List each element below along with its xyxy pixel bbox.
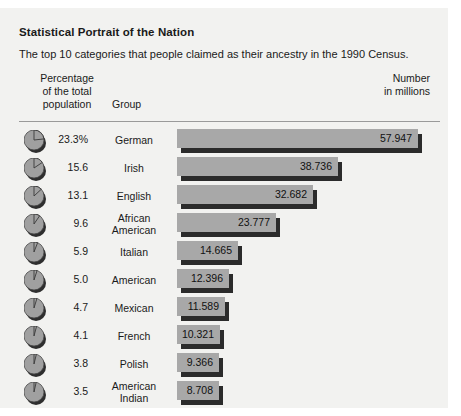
column-header-number: Number in millions (384, 72, 430, 98)
table-row: 5.9Italian14.665 (0, 238, 448, 266)
bar-value-label: 9.366 (177, 353, 219, 372)
group-label-line1: Italian (96, 246, 172, 258)
group-label-line1: English (96, 190, 172, 202)
table-row: 13.1English32.682 (0, 182, 448, 210)
percentage-label: 4.7 (44, 301, 88, 313)
group-label-line1: African (96, 212, 172, 224)
bar-value-label: 11.589 (177, 297, 225, 316)
column-header-group: Group (112, 98, 172, 111)
column-header-percentage-line1: Percentage (21, 72, 113, 85)
percentage-label: 5.9 (44, 245, 88, 257)
table-row: 3.5AmericanIndian8.708 (0, 378, 448, 406)
bar-value-label: 38.736 (177, 157, 338, 176)
bar-value-label: 23.777 (177, 213, 276, 232)
group-label-line1: American (96, 380, 172, 392)
table-row: 5.0American12.396 (0, 266, 448, 294)
bar-container: 11.589 (177, 294, 448, 322)
pie-chart-icon (24, 298, 46, 320)
bar-value-label: 10.321 (177, 325, 220, 344)
bar-value-label: 57.947 (177, 129, 418, 148)
group-label: AmericanIndian (96, 378, 172, 406)
pie-chart-icon (24, 214, 46, 236)
percentage-label: 4.1 (44, 329, 88, 341)
percentage-label: 9.6 (44, 217, 88, 229)
bar-value-label: 14.665 (177, 241, 238, 260)
group-label: English (96, 182, 172, 210)
bar-container: 8.708 (177, 378, 448, 406)
bar-container: 14.665 (177, 238, 448, 266)
group-label: Irish (96, 154, 172, 182)
table-row: 4.7Mexican11.589 (0, 294, 448, 322)
group-label-line2: Indian (96, 392, 172, 404)
bar-container: 12.396 (177, 266, 448, 294)
percentage-label: 23.3% (44, 133, 88, 145)
table-row: 23.3%German57.947 (0, 126, 448, 154)
column-header-percentage-line3: population (21, 98, 113, 111)
table-row: 15.6Irish38.736 (0, 154, 448, 182)
group-label-line1: French (96, 330, 172, 342)
pie-chart-icon (24, 186, 46, 208)
table-row: 9.6AfricanAmerican23.777 (0, 210, 448, 238)
pie-chart-icon (24, 354, 46, 376)
bar-container: 38.736 (177, 154, 448, 182)
group-label: Mexican (96, 294, 172, 322)
pie-chart-icon (24, 326, 46, 348)
group-label: AfricanAmerican (96, 210, 172, 238)
group-label-line1: Irish (96, 162, 172, 174)
percentage-label: 5.0 (44, 273, 88, 285)
percentage-label: 3.8 (44, 357, 88, 369)
group-label: French (96, 322, 172, 350)
group-label: Polish (96, 350, 172, 378)
bar-value-label: 12.396 (177, 269, 229, 288)
group-label-line1: American (96, 274, 172, 286)
bar-container: 57.947 (177, 126, 448, 154)
group-label-line1: German (96, 134, 172, 146)
chart-rows: 23.3%German57.94715.6Irish38.73613.1Engl… (0, 126, 448, 406)
percentage-label: 15.6 (44, 161, 88, 173)
table-row: 4.1French10.321 (0, 322, 448, 350)
table-row: 3.8Polish9.366 (0, 350, 448, 378)
bar-value-label: 32.682 (177, 185, 313, 204)
page-title: Statistical Portrait of the Nation (19, 26, 194, 38)
header-divider (19, 121, 440, 122)
percentage-label: 3.5 (44, 385, 88, 397)
percentage-label: 13.1 (44, 189, 88, 201)
column-header-number-line1: Number (384, 72, 430, 85)
infographic-panel: Statistical Portrait of the Nation The t… (0, 8, 448, 408)
pie-chart-icon (24, 242, 46, 264)
group-label-line2: American (96, 224, 172, 236)
pie-chart-icon (24, 270, 46, 292)
page-subtitle: The top 10 categories that people claime… (19, 48, 409, 60)
pie-chart-icon (24, 382, 46, 404)
column-header-percentage-line2: of the total (21, 85, 113, 98)
group-label-line1: Polish (96, 358, 172, 370)
group-label-line1: Mexican (96, 302, 172, 314)
bar-value-label: 8.708 (177, 381, 219, 400)
column-header-percentage: Percentage of the total population (21, 72, 113, 111)
bar-container: 10.321 (177, 322, 448, 350)
group-label: American (96, 266, 172, 294)
group-label: German (96, 126, 172, 154)
group-label: Italian (96, 238, 172, 266)
pie-chart-icon (24, 158, 46, 180)
bar-container: 32.682 (177, 182, 448, 210)
column-header-number-line2: in millions (384, 85, 430, 98)
pie-chart-icon (24, 130, 46, 152)
bar-container: 23.777 (177, 210, 448, 238)
bar-container: 9.366 (177, 350, 448, 378)
